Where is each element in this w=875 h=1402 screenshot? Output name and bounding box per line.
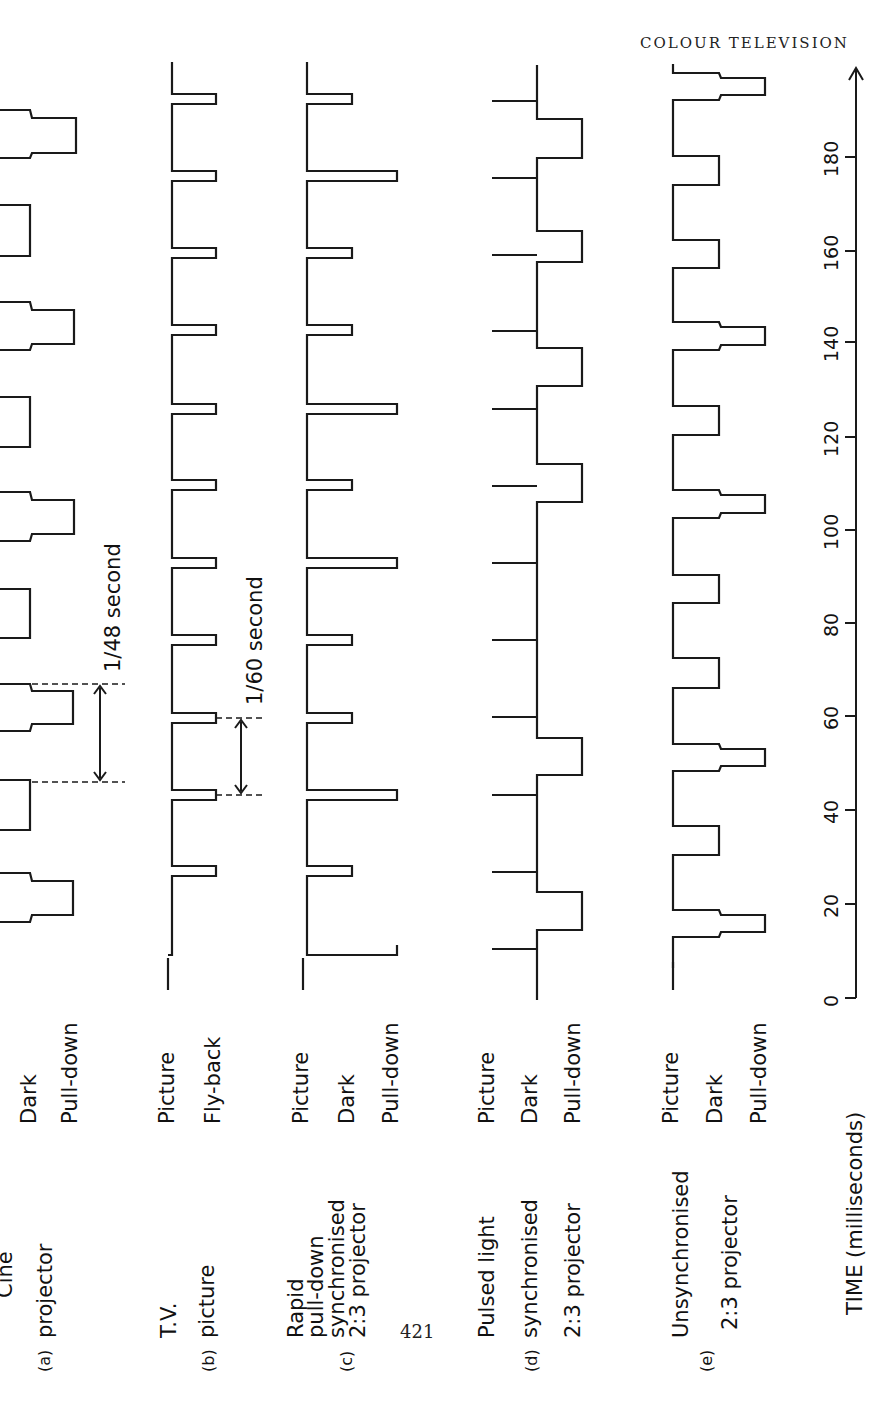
row-a-level-pulldown: Pull-down: [58, 1022, 82, 1124]
cine-period-annotation: 1/48 second: [32, 543, 125, 782]
row-a-labels: Cine (a) projector Dark Pull-down: [0, 1022, 82, 1372]
row-d-labels: Pulsed light (d) synchronised 2:3 projec…: [475, 1022, 585, 1372]
row-c-level-pulldown: Pull-down: [379, 1022, 403, 1124]
page-number: 421: [400, 1321, 434, 1342]
row-d-level-picture: Picture: [475, 1052, 499, 1124]
row-e-marker: (e): [697, 1350, 716, 1372]
tv-period-label: 1/60 second: [243, 576, 267, 705]
row-c-labels: Rapid pull-down (c) synchronised 2:3 pro…: [284, 1022, 403, 1372]
waveform-e-unsynchronised: [673, 64, 765, 968]
tick-label-120: 120: [820, 421, 842, 457]
tick-label-180: 180: [820, 141, 842, 177]
row-a-title-1: Cine: [0, 1251, 17, 1298]
waveform-d-pulsed-light: [492, 65, 582, 998]
tick-label-20: 20: [820, 894, 842, 918]
row-d-marker: (d): [522, 1349, 541, 1372]
row-b-marker: (b): [199, 1349, 218, 1372]
waveform-a-cine-projector: [0, 110, 76, 922]
row-c-title-4: 2:3 projector: [346, 1203, 370, 1338]
row-c-level-picture: Picture: [289, 1052, 313, 1124]
row-d-title-1: Pulsed light: [475, 1216, 499, 1338]
row-d-title-2: synchronised: [518, 1199, 542, 1338]
row-d-title-3: 2:3 projector: [561, 1203, 585, 1338]
row-e-title-1: Unsynchronised: [669, 1170, 693, 1338]
label-leader-lines: [168, 958, 673, 1000]
row-e-labels: (e) Unsynchronised 2:3 projector Picture…: [659, 1022, 771, 1372]
tick-label-160: 160: [820, 235, 842, 271]
row-c-marker: (c): [337, 1351, 356, 1372]
row-a-marker: (a): [35, 1350, 54, 1372]
row-d-level-dark: Dark: [518, 1073, 542, 1124]
tick-label-140: 140: [820, 326, 842, 362]
row-b-level-picture: Picture: [155, 1052, 179, 1124]
tick-label-40: 40: [820, 800, 842, 824]
tick-label-80: 80: [820, 613, 842, 637]
tick-label-100: 100: [820, 514, 842, 550]
row-b-labels: T.V. (b) picture Picture Fly-back: [155, 1036, 225, 1372]
row-e-title-2: 2:3 projector: [718, 1195, 742, 1330]
axis-title: TIME (milliseconds): [843, 1112, 867, 1316]
row-e-level-pulldown: Pull-down: [747, 1022, 771, 1124]
cine-period-label: 1/48 second: [101, 543, 125, 672]
row-e-level-dark: Dark: [703, 1073, 727, 1124]
tv-period-annotation: 1/60 second: [216, 576, 267, 795]
row-b-title-1: T.V.: [157, 1303, 181, 1339]
waveform-b-tv-picture: [168, 62, 216, 955]
row-a-title-2: projector: [33, 1243, 57, 1338]
row-b-title-2: picture: [195, 1265, 219, 1338]
row-b-level-flyback: Fly-back: [201, 1036, 225, 1124]
row-a-level-dark: Dark: [17, 1073, 41, 1124]
row-d-level-pulldown: Pull-down: [561, 1022, 585, 1124]
timing-diagram-figure: COLOUR TELEVISION 1/48 second 1/60 secon…: [0, 0, 875, 1402]
time-axis: 0 20 40 60 80 100 120 140 160 180 TIME (…: [820, 68, 867, 1316]
row-e-level-picture: Picture: [659, 1052, 683, 1124]
running-header: COLOUR TELEVISION: [640, 34, 849, 52]
tick-label-0: 0: [820, 995, 842, 1007]
waveform-c-rapid-pulldown: [307, 62, 397, 955]
row-c-level-dark: Dark: [335, 1073, 359, 1124]
tick-label-60: 60: [820, 706, 842, 730]
